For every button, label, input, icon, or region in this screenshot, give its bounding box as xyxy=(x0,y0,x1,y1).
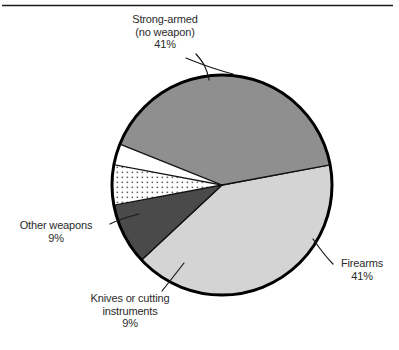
pie-label-strong-armed-line2: (no weapon) xyxy=(111,26,219,39)
pie-label-knives-value: 9% xyxy=(66,317,194,330)
pie-label-knives-line2: instruments xyxy=(66,305,194,318)
pie-label-strong-armed: Strong-armed (no weapon) 41% xyxy=(111,13,219,51)
pie-label-other-weapons-value: 9% xyxy=(4,232,108,245)
pie-label-firearms: Firearms 41% xyxy=(330,257,394,282)
pie-label-strong-armed-line1: Strong-armed xyxy=(111,13,219,26)
pie-label-other-weapons: Other weapons 9% xyxy=(4,219,108,244)
chart-figure: Strong-armed (no weapon) 41% Firearms 41… xyxy=(0,0,399,350)
pie-label-knives: Knives or cutting instruments 9% xyxy=(66,292,194,330)
pie-slice-firearms[interactable] xyxy=(120,75,330,185)
pie-label-other-weapons-line1: Other weapons xyxy=(4,219,108,232)
leader-line-strong-armed-arc xyxy=(186,58,233,74)
pie-label-firearms-line1: Firearms xyxy=(330,257,394,270)
pie-label-strong-armed-value: 41% xyxy=(111,38,219,51)
pie-label-firearms-value: 41% xyxy=(330,270,394,283)
pie-chart-graphic xyxy=(0,0,399,350)
pie-label-knives-line1: Knives or cutting xyxy=(66,292,194,305)
